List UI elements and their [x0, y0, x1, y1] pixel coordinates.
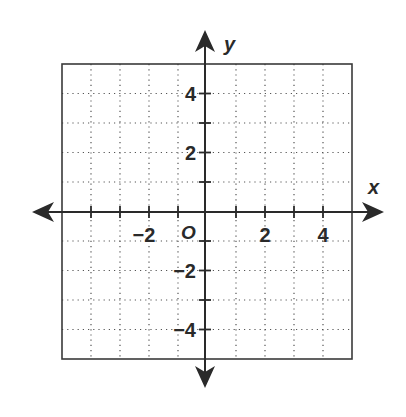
x-tick-label: −2 [133, 224, 156, 246]
x-tick-label: 4 [317, 224, 329, 246]
coordinate-plane: −22442−2−4 x y O [0, 0, 406, 417]
y-tick-label: −4 [173, 319, 197, 341]
y-tick-label: 4 [185, 83, 197, 105]
y-axis-label: y [223, 33, 236, 55]
axes [32, 30, 384, 388]
x-axis-label: x [367, 176, 380, 198]
x-tick-label: 2 [259, 224, 270, 246]
y-tick-label: 2 [185, 142, 196, 164]
y-tick-label: −2 [173, 260, 196, 282]
origin-label: O [181, 222, 196, 243]
